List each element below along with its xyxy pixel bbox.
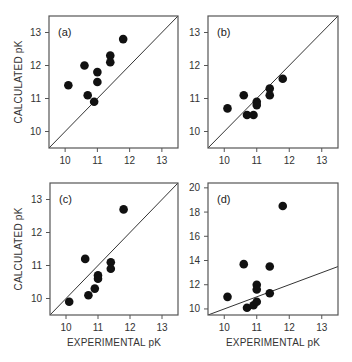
data-point — [239, 91, 248, 100]
x-tick-label: 12 — [284, 155, 296, 166]
data-point — [252, 101, 261, 110]
x-axis-title: EXPERIMENTAL pK — [67, 337, 161, 348]
figure-canvas: 1011121310111213(a)CALCULATED pK10111213… — [0, 0, 352, 362]
y-tick-label: 10 — [30, 126, 42, 137]
y-tick-label: 10 — [189, 303, 201, 314]
data-point — [252, 285, 261, 294]
data-point — [119, 205, 128, 214]
y-tick-label: 14 — [189, 255, 201, 266]
data-point — [106, 58, 115, 67]
data-point — [93, 78, 102, 87]
panel-label: (d) — [217, 193, 230, 205]
x-tick-label: 10 — [60, 155, 72, 166]
scatter-panel-d: 10111213101214161820(d)EXPERIMENTAL pK — [189, 182, 338, 348]
data-point — [90, 98, 99, 107]
y-axis-title: CALCULATED pK — [13, 40, 24, 123]
y-tick-label: 20 — [189, 182, 201, 193]
panel-label: (c) — [59, 193, 72, 205]
data-point — [265, 289, 274, 298]
data-point — [278, 202, 287, 211]
y-tick-label: 10 — [31, 293, 43, 304]
x-tick-label: 13 — [156, 155, 168, 166]
y-tick-label: 18 — [189, 207, 201, 218]
x-tick-label: 11 — [93, 322, 104, 333]
x-tick-label: 10 — [219, 155, 231, 166]
scatter-panel-a: 1011121310111213(a)CALCULATED pK — [13, 16, 178, 166]
data-point — [84, 291, 93, 300]
data-point — [94, 274, 103, 283]
data-point — [223, 293, 232, 302]
data-point — [80, 61, 89, 70]
y-tick-label: 13 — [31, 194, 43, 205]
data-point — [223, 104, 232, 113]
y-axis-title: CALCULATED pK — [13, 207, 24, 290]
x-tick-label: 11 — [92, 155, 103, 166]
scatter-panel-b: 1011121310111213(b) — [189, 16, 338, 166]
data-point — [249, 111, 258, 120]
x-tick-label: 12 — [284, 322, 296, 333]
y-tick-label: 12 — [30, 60, 42, 71]
y-tick-label: 11 — [190, 93, 201, 104]
y-tick-label: 12 — [31, 227, 43, 238]
y-tick-label: 16 — [189, 231, 201, 242]
panel-label: (b) — [217, 26, 230, 38]
data-point — [91, 284, 100, 293]
x-tick-label: 13 — [316, 322, 328, 333]
data-point — [265, 91, 274, 100]
y-tick-label: 13 — [189, 27, 201, 38]
data-point — [265, 262, 274, 271]
y-tick-label: 10 — [189, 126, 201, 137]
x-tick-label: 13 — [316, 155, 328, 166]
data-point — [83, 91, 92, 100]
panel-label: (a) — [58, 26, 71, 38]
y-tick-label: 12 — [189, 279, 201, 290]
data-point — [93, 68, 102, 77]
data-point — [119, 35, 128, 44]
y-tick-label: 11 — [32, 260, 43, 271]
x-axis-title: EXPERIMENTAL pK — [226, 337, 320, 348]
data-point — [107, 265, 116, 274]
scatter-panel-c: 1011121310111213(c)CALCULATED pKEXPERIME… — [13, 183, 178, 348]
x-tick-label: 10 — [219, 322, 231, 333]
data-point — [278, 74, 287, 83]
x-tick-label: 11 — [252, 155, 263, 166]
y-tick-label: 12 — [189, 60, 201, 71]
y-tick-label: 13 — [30, 27, 42, 38]
data-point — [252, 297, 261, 306]
y-tick-label: 11 — [31, 93, 42, 104]
data-point — [65, 298, 74, 307]
x-tick-label: 10 — [60, 322, 72, 333]
data-point — [239, 260, 248, 269]
x-tick-label: 12 — [124, 155, 136, 166]
x-tick-label: 12 — [124, 322, 136, 333]
data-point — [64, 81, 73, 90]
x-tick-label: 11 — [252, 322, 263, 333]
x-tick-label: 13 — [156, 322, 168, 333]
data-point — [81, 255, 90, 264]
